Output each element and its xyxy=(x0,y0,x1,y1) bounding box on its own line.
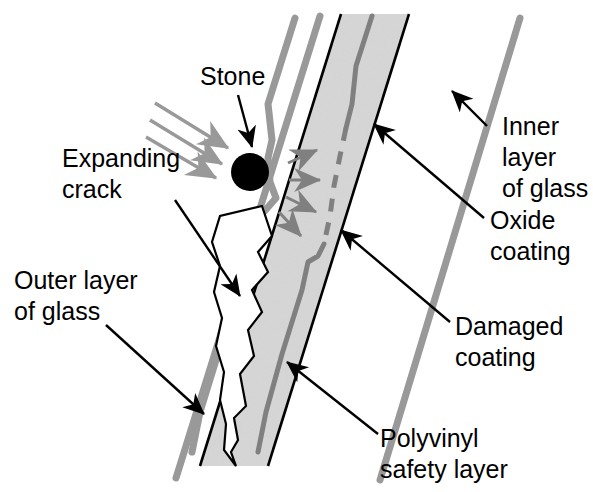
leader-polyvinyl-safety-layer xyxy=(287,362,378,434)
leader-oxide-coating xyxy=(374,124,484,218)
stone-circle xyxy=(231,153,269,191)
label-outer-layer-of-glass-line: of glass xyxy=(14,297,100,325)
diagram-root: Stone Expanding crack Outer layer of gla… xyxy=(0,0,593,492)
label-polyvinyl-safety-layer-line: safety layer xyxy=(380,455,508,483)
leader-damaged-coating xyxy=(341,230,450,322)
label-expanding-crack-line: crack xyxy=(62,175,122,203)
label-stone-line: Stone xyxy=(200,62,265,90)
label-inner-layer-of-glass-line: of glass xyxy=(502,174,588,202)
label-expanding-crack-line: Expanding xyxy=(62,144,180,172)
label-oxide-coating-line: Oxide xyxy=(490,206,555,234)
label-inner-layer-of-glass-line: layer xyxy=(502,143,556,171)
leader-stone xyxy=(238,95,252,147)
label-oxide-coating: Oxide coating xyxy=(490,206,571,265)
label-damaged-coating-line: coating xyxy=(455,343,536,371)
label-expanding-crack: Expanding crack xyxy=(62,144,187,203)
impact-arrow xyxy=(155,103,228,148)
label-outer-layer-of-glass: Outer layer of glass xyxy=(14,266,145,325)
leader-inner-layer-of-glass xyxy=(452,91,487,126)
label-damaged-coating-line: Damaged xyxy=(455,312,563,340)
label-damaged-coating: Damaged coating xyxy=(455,312,570,371)
label-polyvinyl-safety-layer: Polyvinyl safety layer xyxy=(380,424,508,483)
label-stone: Stone xyxy=(200,62,265,90)
leader-outer-layer-of-glass xyxy=(106,325,204,414)
label-inner-layer-of-glass: Inner layer of glass xyxy=(502,112,588,202)
label-oxide-coating-line: coating xyxy=(490,237,571,265)
windshield-cross-section-diagram: Stone Expanding crack Outer layer of gla… xyxy=(0,0,593,492)
label-inner-layer-of-glass-line: Inner xyxy=(502,112,559,140)
label-outer-layer-of-glass-line: Outer layer xyxy=(14,266,138,294)
label-polyvinyl-safety-layer-line: Polyvinyl xyxy=(380,424,479,452)
